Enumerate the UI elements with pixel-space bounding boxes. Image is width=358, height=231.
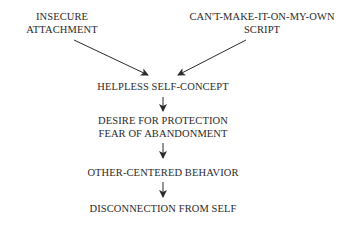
node-disconnection-label: DISCONNECTION FROM SELF	[83, 202, 243, 215]
node-insecure-attachment-line2: ATTACHMENT	[12, 23, 112, 36]
node-insecure-attachment: INSECURE ATTACHMENT	[12, 10, 112, 36]
arrow-script-to-helpless	[178, 40, 246, 75]
node-desire-line1: DESIRE FOR PROTECTION	[83, 114, 243, 127]
node-insecure-attachment-line1: INSECURE	[12, 10, 112, 23]
node-other-centered-behavior: OTHER-CENTERED BEHAVIOR	[83, 166, 243, 179]
node-desire-line2: FEAR OF ABANDONMENT	[83, 127, 243, 140]
arrow-insecure-to-helpless	[74, 40, 148, 75]
node-script: CAN'T-MAKE-IT-ON-MY-OWN SCRIPT	[172, 10, 352, 36]
node-script-line2: SCRIPT	[172, 23, 352, 36]
node-helpless-self-concept: HELPLESS SELF-CONCEPT	[83, 80, 243, 93]
node-desire-fear: DESIRE FOR PROTECTION FEAR OF ABANDONMEN…	[83, 114, 243, 140]
node-helpless-label: HELPLESS SELF-CONCEPT	[83, 80, 243, 93]
node-other-centered-label: OTHER-CENTERED BEHAVIOR	[83, 166, 243, 179]
node-script-line1: CAN'T-MAKE-IT-ON-MY-OWN	[172, 10, 352, 23]
node-disconnection-from-self: DISCONNECTION FROM SELF	[83, 202, 243, 215]
